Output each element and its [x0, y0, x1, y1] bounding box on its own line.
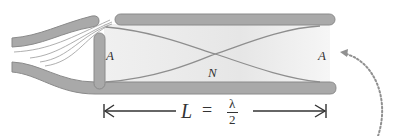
fraction-numerator: λ	[229, 96, 235, 112]
label-node-center: N	[208, 65, 217, 81]
length-arrow	[104, 104, 326, 118]
label-antinode-right: A	[318, 48, 326, 64]
length-symbol: L	[181, 100, 192, 123]
fraction-denominator: 2	[229, 112, 236, 128]
pipe-lip	[94, 33, 105, 89]
label-antinode-left: A	[106, 48, 114, 64]
pipe-upper-wall	[115, 14, 335, 25]
equals-sign: =	[202, 100, 212, 121]
dotted-arrow	[340, 49, 382, 136]
